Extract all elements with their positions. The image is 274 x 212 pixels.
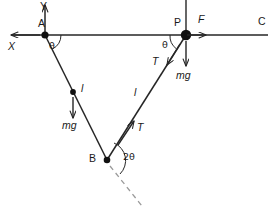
angle-label-theta-at-p: θ — [162, 40, 168, 50]
force-label-tension-upper: T — [152, 56, 158, 67]
force-label-mg-left: mg — [62, 120, 77, 131]
dashed-extension-line — [110, 166, 142, 206]
angle-label-two-theta-at-b: 2θ — [123, 152, 135, 162]
force-label-f: F — [198, 14, 204, 25]
point-marker-left-mass — [70, 89, 76, 95]
string-segment-ab — [45, 35, 107, 160]
length-label-left-string: l — [81, 83, 83, 94]
physics-diagram-canvas: Y X C A P B θ θ 2θ F T T mg mg l l — [0, 0, 274, 212]
angle-label-theta-at-a: θ — [49, 41, 55, 51]
axis-label-y: Y — [40, 1, 47, 12]
length-label-right-string: l — [134, 87, 136, 98]
point-marker-a — [41, 31, 48, 38]
point-marker-b — [104, 157, 111, 164]
force-label-mg-right: mg — [176, 70, 191, 81]
force-arrow-tension-lower — [118, 121, 134, 145]
axis-label-x: X — [8, 41, 15, 52]
point-label-b: B — [89, 153, 96, 164]
diagram-vector-layer — [0, 0, 274, 212]
angle-arc-at-p — [170, 35, 176, 49]
axis-label-c: C — [258, 16, 266, 27]
point-label-a: A — [38, 18, 45, 29]
force-arrow-tension-upper — [167, 44, 180, 65]
force-label-tension-lower: T — [137, 122, 143, 133]
point-label-p: P — [174, 17, 181, 28]
